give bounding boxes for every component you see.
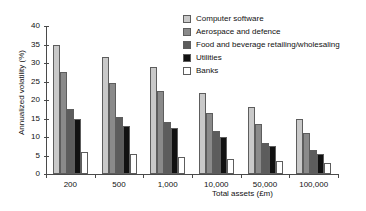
- bar: [74, 119, 81, 175]
- bar: [276, 161, 283, 174]
- legend-swatch-icon: [183, 15, 191, 23]
- x-axis-tick: [241, 174, 242, 178]
- y-axis-tick-label: 20: [20, 96, 40, 104]
- bar: [213, 131, 220, 174]
- bar: [102, 57, 109, 174]
- y-axis-tick-label: 15: [20, 115, 40, 123]
- legend-item: Banks: [183, 64, 340, 77]
- x-axis-title: Total assets (£m): [212, 189, 273, 198]
- x-axis-tick: [338, 174, 339, 178]
- bar: [310, 150, 317, 174]
- y-axis-tick: [44, 82, 49, 83]
- bar: [296, 119, 303, 175]
- bar: [269, 146, 276, 174]
- legend-label: Computer software: [196, 15, 264, 23]
- bar: [220, 137, 227, 174]
- legend-label: Utilities: [196, 54, 222, 62]
- y-axis-tick-label: 10: [20, 133, 40, 141]
- bar: [67, 109, 74, 174]
- legend-label: Aerospace and defence: [196, 28, 281, 36]
- y-axis-tick-label: 5: [20, 152, 40, 160]
- y-axis-tick: [44, 156, 49, 157]
- bar: [248, 107, 255, 174]
- y-axis-tick-label: 0: [20, 170, 40, 178]
- bar: [178, 157, 185, 174]
- chart-legend: Computer softwareAerospace and defenceFo…: [183, 12, 340, 77]
- y-axis-tick: [44, 137, 49, 138]
- legend-item: Utilities: [183, 51, 340, 64]
- chart-figure: Annualized volatility (%) 05101520253035…: [0, 0, 366, 211]
- bar: [109, 83, 116, 174]
- bar: [227, 159, 234, 174]
- legend-item: Computer software: [183, 12, 340, 25]
- bar: [303, 133, 310, 174]
- bar: [150, 67, 157, 174]
- legend-item: Aerospace and defence: [183, 25, 340, 38]
- y-axis-tick-label: 40: [20, 22, 40, 30]
- bar: [171, 128, 178, 174]
- legend-swatch-icon: [183, 54, 191, 62]
- legend-label: Food and beverage retailing/wholesaling: [196, 41, 340, 49]
- bar: [123, 126, 130, 174]
- bar: [262, 143, 269, 174]
- bar: [324, 163, 331, 174]
- x-axis-tick: [192, 174, 193, 178]
- y-axis-tick: [44, 100, 49, 101]
- bar: [157, 91, 164, 174]
- y-axis-tick: [44, 63, 49, 64]
- bar: [81, 152, 88, 174]
- x-axis-tick: [289, 174, 290, 178]
- bar: [130, 154, 137, 174]
- bar: [255, 124, 262, 174]
- y-axis-tick: [44, 45, 49, 46]
- bar: [60, 72, 67, 174]
- y-axis-tick: [44, 119, 49, 120]
- x-axis-tick: [95, 174, 96, 178]
- y-axis-tick-label: 35: [20, 41, 40, 49]
- legend-swatch-icon: [183, 28, 191, 36]
- legend-swatch-icon: [183, 67, 191, 75]
- legend-item: Food and beverage retailing/wholesaling: [183, 38, 340, 51]
- y-axis-tick: [44, 26, 49, 27]
- x-axis-tick: [143, 174, 144, 178]
- bar: [199, 93, 206, 174]
- legend-swatch-icon: [183, 41, 191, 49]
- bar: [317, 154, 324, 174]
- legend-label: Banks: [196, 67, 218, 75]
- y-axis-tick-label: 25: [20, 78, 40, 86]
- bar: [116, 117, 123, 174]
- y-axis-tick-label: 30: [20, 59, 40, 67]
- bar: [206, 113, 213, 174]
- bar: [53, 45, 60, 175]
- bar: [164, 122, 171, 174]
- x-axis-tick: [46, 174, 47, 178]
- x-axis-tick-label: 100,000: [284, 181, 344, 189]
